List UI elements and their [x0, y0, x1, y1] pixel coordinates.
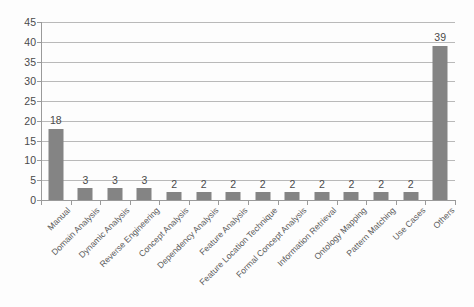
- bar-value-label: 2: [230, 179, 236, 190]
- y-tick-label: 30: [24, 76, 36, 87]
- x-tick-mark: [248, 200, 249, 205]
- bar-value-label: 2: [171, 179, 177, 190]
- bar[interactable]: [137, 188, 152, 200]
- bar[interactable]: [78, 188, 93, 200]
- x-axis-labels-group: ManualDomain AnalysisDynamic AnalysisRev…: [41, 206, 455, 307]
- bar[interactable]: [107, 188, 122, 200]
- x-tick-mark: [71, 200, 72, 205]
- y-tick-label: 5: [30, 175, 36, 186]
- x-tick-mark: [189, 200, 190, 205]
- bar-slot[interactable]: 2: [337, 22, 367, 200]
- x-tick-mark: [366, 200, 367, 205]
- x-tick-mark: [218, 200, 219, 205]
- bar[interactable]: [314, 192, 329, 200]
- bar-value-label: 2: [408, 179, 414, 190]
- bar-value-label: 3: [112, 175, 118, 186]
- bar-slot[interactable]: 2: [218, 22, 248, 200]
- bar-value-label: 3: [82, 175, 88, 186]
- x-tick-mark: [41, 200, 42, 205]
- bar[interactable]: [344, 192, 359, 200]
- bar[interactable]: [433, 46, 448, 200]
- bar-slot[interactable]: 2: [159, 22, 189, 200]
- bar-slot[interactable]: 2: [189, 22, 219, 200]
- bar-slot[interactable]: 2: [366, 22, 396, 200]
- bar-value-label: 3: [142, 175, 148, 186]
- x-tick-mark: [130, 200, 131, 205]
- bar-slot[interactable]: 2: [248, 22, 278, 200]
- bar-value-label: 2: [201, 179, 207, 190]
- bar[interactable]: [48, 129, 63, 200]
- x-tick-mark: [396, 200, 397, 205]
- bar[interactable]: [255, 192, 270, 200]
- bar-value-label: 2: [349, 179, 355, 190]
- y-tick-label: 45: [24, 17, 36, 28]
- bar-value-label: 18: [50, 115, 62, 126]
- bar-slot[interactable]: 3: [71, 22, 101, 200]
- bar[interactable]: [374, 192, 389, 200]
- y-tick-label: 0: [30, 195, 36, 206]
- bar-value-label: 2: [378, 179, 384, 190]
- bar-value-label: 2: [289, 179, 295, 190]
- x-tick-mark: [337, 200, 338, 205]
- bar-value-label: 2: [319, 179, 325, 190]
- bar-slot[interactable]: 2: [278, 22, 308, 200]
- x-tick-mark: [100, 200, 101, 205]
- bar-value-label: 39: [434, 32, 446, 43]
- bar-slot[interactable]: 3: [100, 22, 130, 200]
- bar[interactable]: [196, 192, 211, 200]
- y-tick-label: 25: [24, 96, 36, 107]
- y-tick-label: 40: [24, 37, 36, 48]
- x-tick-mark: [455, 200, 456, 205]
- bars-group: 1833322222222239: [41, 22, 455, 200]
- y-tick-label: 35: [24, 56, 36, 67]
- x-tick-mark: [425, 200, 426, 205]
- bar[interactable]: [226, 192, 241, 200]
- bar[interactable]: [167, 192, 182, 200]
- bar-slot[interactable]: 18: [41, 22, 71, 200]
- bar-slot[interactable]: 2: [396, 22, 426, 200]
- bar-slot[interactable]: 3: [130, 22, 160, 200]
- y-tick-label: 20: [24, 116, 36, 127]
- y-tick-label: 10: [24, 155, 36, 166]
- bar-value-label: 2: [260, 179, 266, 190]
- bar[interactable]: [285, 192, 300, 200]
- bar-chart: 051015202530354045 1833322222222239 Manu…: [0, 0, 474, 307]
- bar-slot[interactable]: 39: [425, 22, 455, 200]
- bar[interactable]: [403, 192, 418, 200]
- bar-slot[interactable]: 2: [307, 22, 337, 200]
- x-tick-mark: [278, 200, 279, 205]
- x-tick-mark: [159, 200, 160, 205]
- y-tick-label: 15: [24, 135, 36, 146]
- x-tick-mark: [307, 200, 308, 205]
